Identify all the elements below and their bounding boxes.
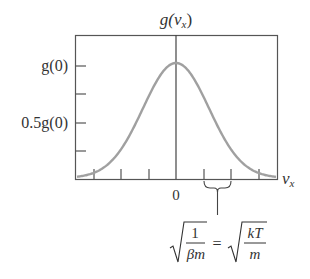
y-tick-label-half-g0: 0.5g(0): [21, 114, 68, 132]
svg-text:=: =: [212, 235, 221, 252]
svg-text:1: 1: [191, 225, 199, 241]
svg-text:m: m: [250, 246, 261, 262]
x-axis-label: vx: [282, 169, 295, 189]
sigma-formula: 1 βm = kT m: [170, 222, 267, 262]
chart-title: g(vx): [160, 10, 192, 30]
y-ticks: [75, 66, 86, 151]
gaussian-distribution-figure: g(vx) g(0) 0.5g(0) vx 0 1 βm = kT m: [0, 0, 310, 279]
svg-text:kT: kT: [248, 225, 265, 241]
x-tick-label-zero: 0: [172, 187, 180, 203]
brace-annotation: [204, 181, 231, 192]
svg-text:βm: βm: [186, 246, 205, 262]
y-tick-label-g0: g(0): [41, 57, 68, 75]
